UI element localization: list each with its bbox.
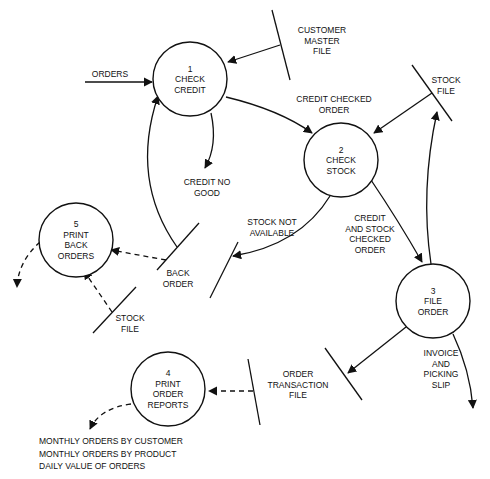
process-label: CREDIT xyxy=(174,85,206,95)
data-store-back-order: BACKORDER xyxy=(157,223,199,289)
data-store-label: ORDER xyxy=(163,279,194,289)
flow-label-invoice: AND xyxy=(432,359,450,369)
flow-label-credit-no-good: GOOD xyxy=(194,188,220,198)
data-store-line xyxy=(248,359,260,425)
flow-label-invoice: INVOICE xyxy=(424,348,459,358)
process-number: 3 xyxy=(431,286,436,296)
process-label: PRINT xyxy=(63,230,89,240)
data-store-label: FILE xyxy=(289,390,307,400)
process-number: 2 xyxy=(339,145,344,155)
process-3: 3FILEORDER xyxy=(396,264,470,338)
data-store-line xyxy=(325,348,362,400)
process-label: PRINT xyxy=(155,379,181,389)
data-store-line xyxy=(272,10,290,80)
process-1: 1CHECKCREDIT xyxy=(153,42,227,116)
data-store-label: FILE xyxy=(437,86,455,96)
flow-label-credit-stock-checked: ORDER xyxy=(355,245,386,255)
data-store-label: FILE xyxy=(313,46,331,56)
data-store-label: ORDER xyxy=(283,369,314,379)
process-label: ORDER xyxy=(418,307,449,317)
flow-label-credit-stock-checked: AND STOCK xyxy=(345,224,395,234)
flow-label-credit-checked: ORDER xyxy=(319,105,350,115)
flow-stockfile-to-2 xyxy=(374,93,432,133)
flow-label-stock-not-available: AVAILABLE xyxy=(250,228,295,238)
data-flow-diagram: CUSTOMERMASTERFILESTOCKFILEBACKORDERSTOC… xyxy=(0,0,490,479)
process-label: REPORTS xyxy=(148,400,189,410)
data-store-order-transaction: ORDERTRANSACTIONFILE xyxy=(248,359,328,425)
process-number: 5 xyxy=(74,219,79,229)
process-label: STOCK xyxy=(326,166,355,176)
flow-label-credit-no-good: CREDIT NO xyxy=(184,177,231,187)
data-store-label: BACK xyxy=(166,268,189,278)
flow-backorder-to-1 xyxy=(148,96,177,247)
report-output: MONTHLY ORDERS BY CUSTOMER xyxy=(39,436,183,446)
process-label: CHECK xyxy=(175,74,205,84)
process-label: FILE xyxy=(424,296,442,306)
report-output: DAILY VALUE OF ORDERS xyxy=(39,461,146,471)
flow-4-output xyxy=(90,404,131,429)
process-5: 5PRINTBACKORDERS xyxy=(39,203,113,277)
process-label: ORDER xyxy=(153,389,184,399)
data-store-customer-master: CUSTOMERMASTERFILE xyxy=(272,10,346,80)
data-store-label: STOCK xyxy=(115,313,144,323)
flow-label-credit-checked: CREDIT CHECKED xyxy=(296,94,371,104)
flow-label-stock-not-available: STOCK NOT xyxy=(247,217,296,227)
process-number: 1 xyxy=(188,64,193,74)
flow-label-credit-stock-checked: CHECKED xyxy=(349,234,391,244)
data-store-label: STOCK xyxy=(431,75,460,85)
process-2: 2CHECKSTOCK xyxy=(304,123,378,197)
flow-3-to-stockfile xyxy=(427,112,437,264)
flow-customer-to-credit xyxy=(228,45,280,62)
data-store-label: TRANSACTION xyxy=(268,380,329,390)
process-4: 4PRINTORDERREPORTS xyxy=(131,352,205,426)
process-label: CHECK xyxy=(326,155,356,165)
data-store-line xyxy=(210,242,238,298)
data-store-label: FILE xyxy=(121,324,139,334)
flow-label-invoice: SLIP xyxy=(432,380,451,390)
process-label: BACK xyxy=(64,240,87,250)
flow-stockfile-to-5 xyxy=(84,271,112,312)
data-store-stock-unavailable xyxy=(210,242,238,298)
report-output: MONTHLY ORDERS BY PRODUCT xyxy=(39,449,176,459)
data-store-line xyxy=(157,223,199,270)
flow-label-invoice: PICKING xyxy=(424,369,459,379)
flow-backorder-to-5 xyxy=(111,250,166,260)
flow-label-credit-stock-checked: CREDIT xyxy=(354,213,386,223)
flow-credit-no-good xyxy=(205,113,213,168)
data-store-label: CUSTOMER xyxy=(298,25,347,35)
flow-label-orders: ORDERS xyxy=(92,69,129,79)
process-label: ORDERS xyxy=(58,251,95,261)
flow-5-output xyxy=(17,242,40,287)
flow-3-to-transaction xyxy=(348,327,406,373)
data-store-stock-file-bottom: STOCKFILE xyxy=(93,287,145,334)
process-number: 4 xyxy=(166,368,171,378)
data-store-label: MASTER xyxy=(304,36,339,46)
